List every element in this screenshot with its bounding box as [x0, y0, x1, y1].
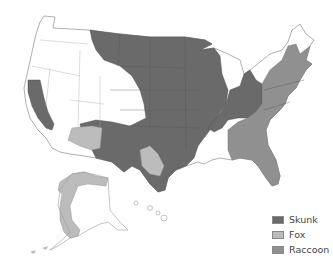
legend-label: Skunk [289, 214, 318, 226]
legend-label: Raccoon [289, 244, 329, 256]
legend-item-skunk: Skunk [272, 214, 329, 226]
legend-item-raccoon: Raccoon [272, 244, 329, 256]
legend-label: Fox [289, 229, 305, 241]
raccoon-swatch [272, 246, 284, 254]
skunk-swatch [272, 216, 284, 224]
legend: Skunk Fox Raccoon [272, 214, 329, 259]
legend-item-fox: Fox [272, 229, 329, 241]
hawaii [134, 201, 167, 221]
aleutian-islands [30, 246, 48, 254]
fox-region-alaska [58, 172, 108, 238]
fox-swatch [272, 231, 284, 239]
